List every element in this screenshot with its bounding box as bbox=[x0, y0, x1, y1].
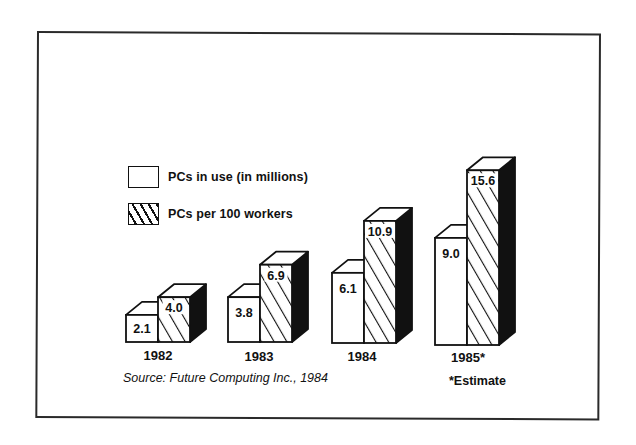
bar-side-face bbox=[396, 208, 412, 343]
bar-pcs-per-100-workers bbox=[467, 170, 499, 345]
bar-group-1985: 15.69.0 bbox=[435, 157, 515, 345]
bar-side-face bbox=[499, 157, 515, 345]
source-note: Source: Future Computing Inc., 1984 bbox=[123, 371, 328, 385]
value-label-pcs-in-use: 6.1 bbox=[339, 282, 356, 296]
value-label-pcs-per-100-workers: 10.9 bbox=[368, 225, 392, 239]
bar-group-1984: 10.96.1 bbox=[332, 208, 412, 343]
bar-pcs-per-100-workers bbox=[364, 221, 396, 343]
value-label-pcs-per-100-workers: 15.6 bbox=[471, 174, 495, 188]
year-label-1985: 1985* bbox=[433, 350, 503, 365]
bar-side-face bbox=[292, 252, 308, 342]
value-label-pcs-in-use: 2.1 bbox=[133, 322, 150, 336]
estimate-note: *Estimate bbox=[449, 374, 506, 388]
year-label-1982: 1982 bbox=[123, 348, 193, 363]
bar-group-1982: 4.02.1 bbox=[126, 284, 206, 342]
year-label-1983: 1983 bbox=[224, 349, 294, 364]
value-label-pcs-in-use: 3.8 bbox=[235, 306, 252, 320]
value-label-pcs-per-100-workers: 4.0 bbox=[165, 301, 182, 315]
value-label-pcs-in-use: 9.0 bbox=[442, 247, 459, 261]
year-label-1984: 1984 bbox=[327, 349, 397, 364]
value-label-pcs-per-100-workers: 6.9 bbox=[267, 269, 284, 283]
bar-group-1983: 6.93.8 bbox=[228, 252, 308, 342]
